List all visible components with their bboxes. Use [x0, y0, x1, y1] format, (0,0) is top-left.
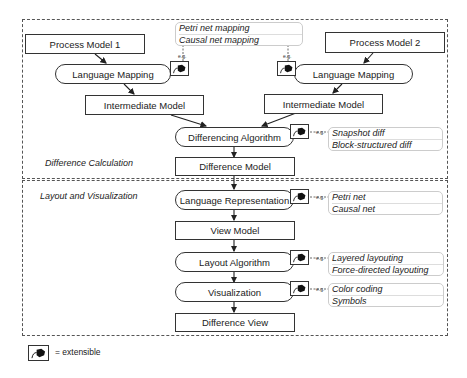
section-difference-calculation: Difference Calculation — [45, 158, 133, 168]
language-mapping-left: Language Mapping — [55, 64, 171, 84]
language-representation: Language Representation — [175, 190, 294, 210]
option-block-structured-diff: Block-structured diff — [332, 139, 442, 151]
view-model: View Model — [175, 221, 295, 240]
process-model-1: Process Model 1 — [25, 34, 145, 54]
process-model-2: Process Model 2 — [325, 32, 445, 53]
representation-options: Petri net Causal net — [328, 191, 443, 215]
option-snapshot-diff: Snapshot diff — [332, 128, 442, 139]
eg-label: e.g. — [316, 255, 324, 261]
eg-label: e.g. — [178, 53, 186, 59]
intermediate-model-left: Intermediate Model — [85, 95, 204, 115]
visualization-options: Color coding Symbols — [328, 283, 444, 307]
differencing-options: Snapshot diff Block-structured diff — [328, 127, 443, 151]
language-mapping-right: Language Mapping — [294, 64, 413, 84]
option-force-directed-layouting: Force-directed layouting — [332, 264, 443, 276]
option-symbols: Symbols — [332, 295, 443, 307]
intermediate-model-right: Intermediate Model — [264, 94, 383, 114]
eg-label: e.g. — [316, 194, 324, 200]
difference-view: Difference View — [175, 313, 295, 332]
eg-label: e.g. — [316, 129, 324, 135]
option-petri-net-mapping: Petri net mapping — [179, 23, 302, 34]
difference-model: Difference Model — [175, 157, 295, 176]
plug-icon — [290, 250, 309, 265]
layout-options: Layered layouting Force-directed layouti… — [328, 252, 444, 276]
diagram-canvas: Petri net mapping Causal net mapping e.g… — [0, 0, 467, 378]
plug-icon — [170, 61, 189, 76]
option-causal-net: Causal net — [332, 203, 442, 215]
layout-algorithm: Layout Algorithm — [175, 252, 294, 272]
section-layout-visualization: Layout and Visualization — [40, 191, 137, 201]
eg-label: e.g. — [316, 286, 324, 292]
plug-icon — [277, 61, 296, 76]
legend-plug-icon — [28, 345, 49, 361]
eg-label: e.g. — [283, 53, 291, 59]
visualization: Visualization — [175, 282, 294, 302]
plug-icon — [290, 189, 309, 204]
mapping-options: Petri net mapping Causal net mapping — [175, 22, 303, 46]
differencing-algorithm: Differencing Algorithm — [175, 127, 294, 147]
option-color-coding: Color coding — [332, 284, 443, 295]
plug-icon — [290, 124, 309, 139]
option-layered-layouting: Layered layouting — [332, 253, 443, 264]
option-petri-net: Petri net — [332, 192, 442, 203]
option-causal-net-mapping: Causal net mapping — [179, 34, 302, 46]
legend-text: = extensible — [55, 347, 101, 357]
plug-icon — [290, 281, 309, 296]
